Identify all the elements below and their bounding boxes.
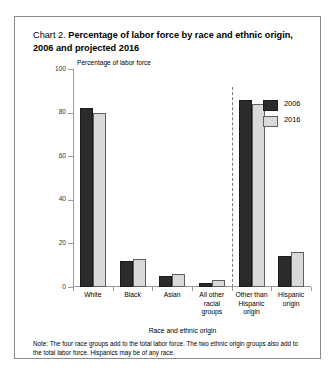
y-tick-label: 100	[55, 65, 66, 72]
chart-title-text: Percentage of labor force by race and et…	[33, 30, 293, 53]
y-tick-label: 60	[59, 152, 66, 159]
x-category-label: White	[73, 291, 113, 300]
x-category-label: Hispanicorigin	[271, 291, 311, 308]
group-divider	[232, 87, 233, 287]
bar-group	[159, 69, 185, 287]
y-axis-line	[73, 69, 74, 287]
y-axis-title: Percentage of labor force	[77, 59, 151, 66]
x-category-label: Black	[113, 291, 153, 300]
bar-2006	[80, 108, 93, 287]
x-axis-title: Race and ethnic origin	[15, 327, 335, 334]
y-tick-mark	[68, 156, 73, 157]
bar-2006	[239, 100, 252, 287]
x-category-label: Other thanHispanicorigin	[232, 291, 272, 317]
bar-2006	[120, 261, 133, 287]
bar-2006	[278, 256, 291, 287]
bar-2006	[159, 276, 172, 287]
chart-note: Note: The four race groups add to the to…	[33, 339, 305, 357]
x-category-label: All otherracialgroups	[192, 291, 232, 317]
y-tick-label: 40	[59, 195, 66, 202]
x-category-label: Asian	[152, 291, 192, 300]
bar-2016	[252, 104, 265, 287]
legend-item-2016: 2016	[263, 115, 321, 131]
y-tick-mark	[68, 113, 73, 114]
y-tick-mark	[68, 200, 73, 201]
page-title: Chart 2. Percentage of labor force by ra…	[33, 29, 301, 55]
bar-2016	[212, 280, 225, 287]
bar-group	[199, 69, 225, 287]
legend-label-2006: 2006	[284, 99, 300, 108]
legend-swatch-2006	[263, 100, 278, 111]
legend-item-2006: 2006	[263, 99, 321, 115]
bar-group	[239, 69, 265, 287]
bar-2016	[172, 274, 185, 287]
bar-2006	[199, 283, 212, 287]
legend-label-2016: 2016	[284, 115, 300, 124]
y-tick-label: 20	[59, 239, 66, 246]
chart-card: Chart 2. Percentage of labor force by ra…	[14, 16, 321, 359]
bar-2016	[133, 259, 146, 287]
legend-swatch-2016	[263, 116, 278, 127]
chart-number: Chart 2.	[33, 30, 66, 40]
y-tick-mark	[68, 69, 73, 70]
legend: 2006 2016	[263, 99, 321, 131]
y-tick-label: 0	[62, 283, 66, 290]
bar-2016	[93, 113, 106, 287]
x-axis-category-labels: WhiteBlackAsianAll otherracialgroupsOthe…	[73, 291, 315, 325]
bar-group	[120, 69, 146, 287]
y-tick-label: 80	[59, 108, 66, 115]
bar-2016	[291, 252, 304, 287]
bar-group	[80, 69, 106, 287]
y-tick-mark	[68, 243, 73, 244]
